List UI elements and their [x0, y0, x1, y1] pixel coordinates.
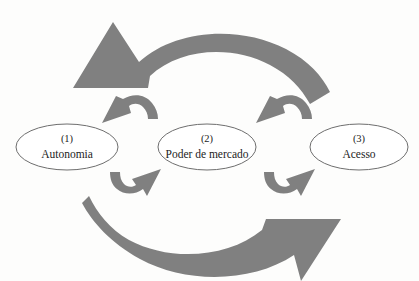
- small-curved-arrow-upper-left: [102, 95, 158, 123]
- large-arc-arrow-left: [73, 22, 330, 104]
- small-curved-arrow-lower-right-shape: [264, 169, 315, 196]
- small-curved-arrow-lower-right: [264, 169, 315, 196]
- node-acesso[interactable]: (3) Acesso: [310, 124, 408, 170]
- node-autonomia-index: (1): [61, 133, 74, 145]
- node-autonomia-label: Autonomia: [41, 148, 93, 160]
- small-curved-arrow-upper-left-shape: [102, 95, 158, 123]
- small-curved-arrow-upper-right: [256, 95, 312, 123]
- small-curved-arrow-upper-right-shape: [256, 95, 312, 123]
- node-autonomia[interactable]: (1) Autonomia: [16, 124, 118, 170]
- cycle-diagram: (1) Autonomia (2) Poder de mercado (3) A…: [0, 0, 419, 281]
- large-arc-arrow-right-shape: [82, 196, 341, 281]
- diagram-canvas: (1) Autonomia (2) Poder de mercado (3) A…: [0, 0, 419, 281]
- node-acesso-index: (3): [353, 133, 366, 145]
- node-poder-de-mercado-label: Poder de mercado: [165, 148, 248, 160]
- node-poder-de-mercado-index: (2): [201, 133, 214, 145]
- large-arc-arrow-right: [82, 196, 341, 281]
- node-acesso-label: Acesso: [342, 148, 375, 160]
- small-curved-arrow-lower-left-shape: [110, 169, 161, 196]
- node-poder-de-mercado[interactable]: (2) Poder de mercado: [158, 124, 256, 170]
- large-arc-arrow-left-shape: [73, 22, 330, 104]
- small-curved-arrow-lower-left: [110, 169, 161, 196]
